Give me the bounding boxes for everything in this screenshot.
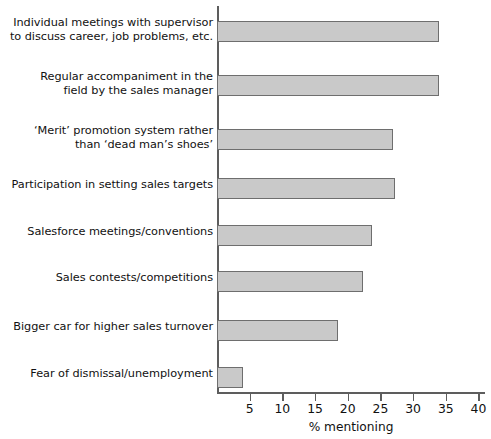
category-label: Bigger car for higher sales turnover: [0, 320, 213, 334]
category-label: Participation in setting sales targets: [0, 178, 213, 192]
x-axis-tick-label: 30: [405, 402, 421, 416]
category-label: Fear of dismissal/unemployment: [0, 367, 213, 381]
category-label: Salesforce meetings/conventions: [0, 225, 213, 239]
x-axis-tick: [348, 393, 349, 401]
x-axis-tick: [250, 393, 251, 401]
x-axis-tick: [315, 393, 316, 401]
x-axis-tick: [478, 393, 479, 401]
bar: [217, 21, 439, 42]
x-axis-tick-label: 15: [307, 402, 323, 416]
category-label: Regular accompaniment in the field by th…: [0, 70, 213, 97]
bar: [217, 178, 395, 199]
x-axis-title: % mentioning: [217, 420, 485, 434]
bar: [217, 271, 363, 292]
x-axis-tick-label: 40: [471, 402, 487, 416]
category-label: Individual meetings with supervisor to d…: [0, 16, 213, 43]
x-axis-tick-label: 5: [246, 402, 254, 416]
x-axis-tick-label: 35: [438, 402, 454, 416]
category-label: ‘Merit’ promotion system rather than ‘de…: [0, 124, 213, 151]
x-axis-tick-label: 20: [340, 402, 356, 416]
bar: [217, 225, 372, 246]
x-axis-tick: [413, 393, 414, 401]
bar: [217, 75, 439, 96]
plot-area: 510152025303540 % mentioning: [217, 6, 485, 393]
x-axis-tick: [446, 393, 447, 401]
bar: [217, 129, 393, 150]
bar: [217, 320, 338, 341]
horizontal-bar-chart: Individual meetings with supervisor to d…: [0, 0, 491, 439]
x-axis-tick: [380, 393, 381, 401]
x-axis-tick: [282, 393, 283, 401]
category-label: Sales contests/competitions: [0, 271, 213, 285]
x-axis-tick-label: 25: [373, 402, 389, 416]
x-axis-tick-label: 10: [274, 402, 290, 416]
bar: [217, 367, 243, 388]
